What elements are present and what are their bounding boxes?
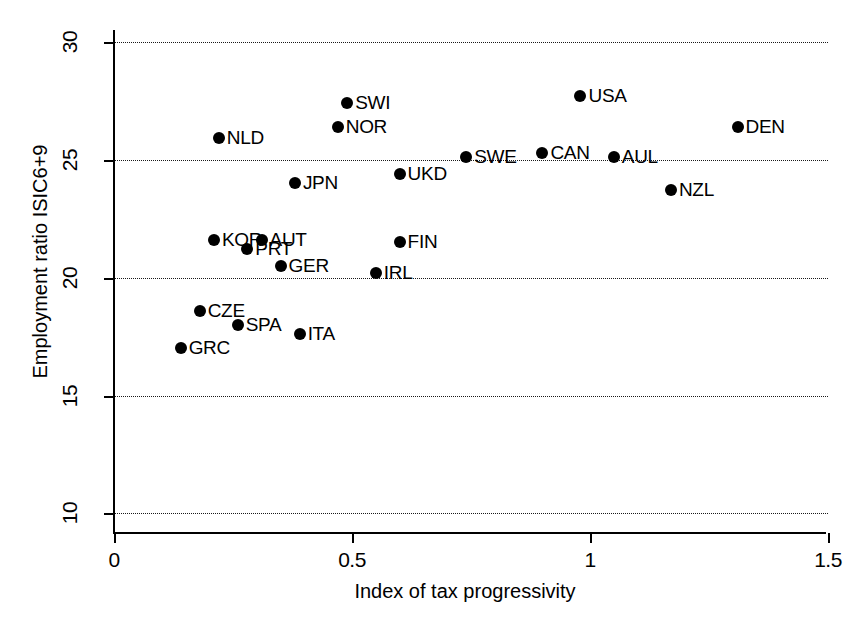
point-marker-icon	[394, 236, 406, 248]
y-tick-15	[104, 396, 114, 398]
point-label-ukd: UKD	[408, 163, 447, 185]
point-marker-icon	[394, 168, 406, 180]
point-label-fin: FIN	[408, 231, 438, 253]
x-tick-0.5	[352, 533, 354, 543]
gridline-y-10	[114, 513, 828, 514]
x-axis-line	[113, 532, 826, 534]
x-tick-1.5	[828, 533, 830, 543]
x-tick-label-1: 1	[555, 548, 625, 572]
y-tick-10	[104, 513, 114, 515]
y-tick-label-30: 30	[58, 22, 82, 62]
plot-area: GRCCZEKORNLDSPAPRTAUTGERJPNITANORSWIIRLU…	[114, 30, 828, 530]
point-label-nor: NOR	[346, 116, 387, 138]
point-label-irl: IRL	[384, 262, 413, 284]
point-marker-icon	[289, 177, 301, 189]
y-tick-label-10: 10	[58, 493, 82, 533]
x-tick-label-0.5: 0.5	[317, 548, 387, 572]
point-marker-icon	[275, 260, 287, 272]
y-tick-30	[104, 42, 114, 44]
point-marker-icon	[208, 234, 220, 246]
x-tick-0	[114, 533, 116, 543]
point-label-nld: NLD	[227, 127, 264, 149]
x-tick-label-1.5: 1.5	[793, 548, 863, 572]
point-label-usa: USA	[588, 85, 626, 107]
y-tick-label-20: 20	[58, 258, 82, 298]
point-marker-icon	[536, 147, 548, 159]
point-marker-icon	[256, 234, 268, 246]
point-label-can: CAN	[550, 142, 589, 164]
gridline-y-20	[114, 278, 828, 279]
point-label-ita: ITA	[308, 323, 335, 345]
point-marker-icon	[574, 90, 586, 102]
point-marker-icon	[332, 121, 344, 133]
point-label-nzl: NZL	[679, 179, 714, 201]
point-marker-icon	[232, 319, 244, 331]
y-axis-title: Employment ratio ISIC6+9	[29, 72, 52, 452]
point-marker-icon	[732, 121, 744, 133]
y-axis-line	[113, 30, 115, 533]
point-marker-icon	[294, 328, 306, 340]
y-tick-label-25: 25	[58, 140, 82, 180]
y-tick-25	[104, 160, 114, 162]
gridline-y-30	[114, 42, 828, 43]
point-label-swi: SWI	[355, 92, 390, 114]
point-label-aul: AUL	[622, 146, 658, 168]
point-label-aut: AUT	[270, 229, 307, 251]
scatter-plot-figure: GRCCZEKORNLDSPAPRTAUTGERJPNITANORSWIIRLU…	[0, 0, 863, 632]
x-tick-1	[590, 533, 592, 543]
point-label-ger: GER	[289, 255, 329, 277]
point-marker-icon	[608, 151, 620, 163]
gridline-y-15	[114, 396, 828, 397]
y-tick-label-15: 15	[58, 376, 82, 416]
point-marker-icon	[460, 151, 472, 163]
point-marker-icon	[175, 342, 187, 354]
x-tick-label-0: 0	[79, 548, 149, 572]
point-label-grc: GRC	[189, 337, 230, 359]
point-label-den: DEN	[746, 116, 785, 138]
point-marker-icon	[241, 243, 253, 255]
point-label-jpn: JPN	[303, 172, 338, 194]
y-tick-20	[104, 278, 114, 280]
point-marker-icon	[341, 97, 353, 109]
x-axis-title: Index of tax progressivity	[265, 580, 665, 603]
point-label-spa: SPA	[246, 314, 282, 336]
point-marker-icon	[213, 132, 225, 144]
point-marker-icon	[665, 184, 677, 196]
point-label-swe: SWE	[474, 146, 516, 168]
point-marker-icon	[370, 267, 382, 279]
point-marker-icon	[194, 305, 206, 317]
